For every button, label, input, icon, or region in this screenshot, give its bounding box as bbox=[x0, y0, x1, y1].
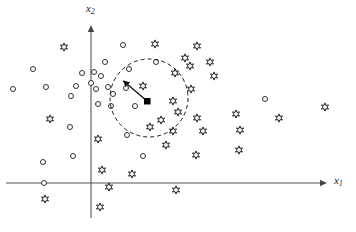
data-point bbox=[193, 114, 200, 122]
data-point bbox=[236, 126, 243, 134]
data-point bbox=[232, 110, 239, 118]
data-point bbox=[169, 97, 176, 105]
data-point bbox=[128, 170, 135, 178]
data-point bbox=[98, 166, 105, 174]
data-point bbox=[172, 186, 179, 194]
y-axis-label-subscript: 2 bbox=[91, 7, 95, 16]
data-point bbox=[174, 108, 181, 116]
data-point bbox=[133, 104, 138, 109]
data-point bbox=[124, 86, 129, 91]
data-point bbox=[68, 125, 73, 130]
data-point bbox=[125, 133, 130, 138]
data-point bbox=[235, 146, 242, 154]
y-axis-label: x2 bbox=[86, 3, 95, 14]
data-point bbox=[71, 154, 76, 159]
data-point bbox=[111, 92, 116, 97]
data-point bbox=[171, 69, 178, 77]
x-axis-label-subscript: 1 bbox=[339, 179, 343, 188]
data-point bbox=[121, 43, 126, 48]
data-point bbox=[206, 58, 213, 66]
data-point bbox=[139, 82, 146, 90]
data-point bbox=[31, 67, 36, 72]
data-point bbox=[96, 203, 103, 211]
data-marker-layer bbox=[11, 40, 329, 211]
data-point bbox=[275, 114, 282, 122]
data-point bbox=[199, 127, 206, 135]
data-point bbox=[74, 84, 79, 89]
data-point bbox=[46, 115, 53, 123]
data-point bbox=[89, 81, 94, 86]
data-point bbox=[193, 42, 200, 50]
data-point bbox=[105, 183, 112, 191]
data-point bbox=[94, 87, 99, 92]
data-point bbox=[146, 123, 153, 131]
data-point bbox=[263, 97, 268, 102]
data-point bbox=[106, 85, 111, 90]
series-star-class bbox=[41, 40, 328, 211]
data-point bbox=[210, 72, 217, 80]
series-circle-class bbox=[11, 43, 268, 186]
data-point bbox=[44, 85, 49, 90]
data-point bbox=[162, 141, 169, 149]
data-point bbox=[69, 94, 74, 99]
data-point bbox=[11, 87, 16, 92]
data-point bbox=[181, 54, 188, 62]
data-point bbox=[99, 74, 104, 79]
data-point bbox=[321, 103, 328, 111]
data-point bbox=[41, 160, 46, 165]
data-point bbox=[103, 60, 108, 65]
data-point bbox=[187, 85, 194, 93]
data-point bbox=[80, 71, 85, 76]
data-point bbox=[141, 154, 146, 159]
data-point bbox=[92, 70, 97, 75]
data-point bbox=[151, 40, 158, 48]
data-point bbox=[157, 116, 164, 124]
plot-canvas bbox=[0, 0, 356, 232]
data-point bbox=[60, 43, 67, 51]
query-point bbox=[144, 98, 151, 105]
data-point bbox=[186, 62, 193, 70]
data-point bbox=[96, 102, 101, 107]
data-point bbox=[94, 135, 101, 143]
scatter-plot-figure: x2 x1 bbox=[0, 0, 356, 232]
data-point bbox=[192, 151, 199, 159]
data-point bbox=[127, 67, 132, 72]
data-point bbox=[41, 195, 48, 203]
data-point bbox=[42, 181, 47, 186]
axes-group bbox=[6, 26, 326, 218]
x-axis-label: x1 bbox=[334, 175, 343, 186]
